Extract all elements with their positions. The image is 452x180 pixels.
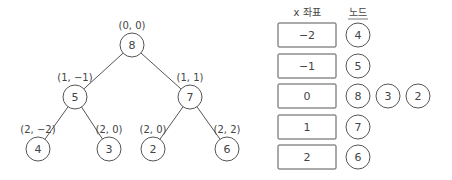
node-value: 3 — [385, 90, 392, 103]
x-coordinate-value: 0 — [304, 90, 311, 103]
tree-node: 6(2, 2) — [214, 124, 241, 161]
tree-node: 8(0, 0) — [119, 20, 146, 57]
node-value: 2 — [415, 90, 422, 103]
node-coordinate-label: (0, 0) — [119, 20, 146, 31]
x-coordinate-value: −2 — [299, 29, 315, 42]
table-row: 0832 — [278, 84, 430, 108]
header-x-coordinate: x 좌표 — [293, 7, 320, 18]
node-coordinate-label: (2, 0) — [96, 124, 123, 135]
table-row: 26 — [278, 145, 370, 169]
tree-node: 2(2, 0) — [140, 124, 167, 161]
node-value: 8 — [355, 90, 362, 103]
tree-node: 5(1, −1) — [57, 72, 92, 109]
node-value: 4 — [355, 29, 362, 42]
node-value: 7 — [355, 121, 362, 134]
tree-nodes: 8(0, 0)5(1, −1)7(1, 1)4(2, −2)3(2, 0)2(2… — [20, 20, 240, 161]
table-row: −24 — [278, 23, 370, 47]
tree-node: 4(2, −2) — [20, 124, 55, 161]
node-coordinate-label: (1, 1) — [177, 72, 204, 83]
node-coordinate-label: (2, −2) — [20, 124, 55, 135]
table-row: 17 — [278, 115, 370, 139]
x-coordinate-value: 2 — [304, 151, 311, 164]
node-value: 6 — [355, 151, 362, 164]
x-coordinate-table: x 좌표 노드 −24−1508321726 — [278, 7, 430, 169]
diagram-canvas: 8(0, 0)5(1, −1)7(1, 1)4(2, −2)3(2, 0)2(2… — [0, 0, 452, 180]
x-coordinate-value: 1 — [304, 121, 311, 134]
x-coordinate-value: −1 — [299, 60, 315, 73]
header-nodes: 노드 — [349, 7, 367, 18]
node-value: 7 — [187, 91, 194, 104]
tree-node: 3(2, 0) — [96, 124, 123, 161]
node-coordinate-label: (2, 2) — [214, 124, 241, 135]
node-value: 4 — [35, 143, 42, 156]
node-coordinate-label: (1, −1) — [57, 72, 92, 83]
node-coordinate-label: (2, 0) — [140, 124, 167, 135]
tree-edge — [84, 53, 123, 89]
node-value: 6 — [224, 143, 231, 156]
node-value: 5 — [72, 91, 79, 104]
node-value: 5 — [355, 60, 362, 73]
node-value: 3 — [106, 143, 113, 156]
node-value: 2 — [150, 143, 157, 156]
node-value: 8 — [129, 39, 136, 52]
tree-node: 7(1, 1) — [177, 72, 204, 109]
table-row: −15 — [278, 54, 370, 78]
tree-edge — [141, 53, 181, 89]
